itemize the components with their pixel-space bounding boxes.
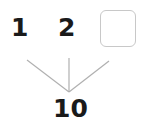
- connector-left: [27, 60, 69, 92]
- connector-right: [69, 61, 109, 92]
- whole-total: 10: [53, 96, 88, 121]
